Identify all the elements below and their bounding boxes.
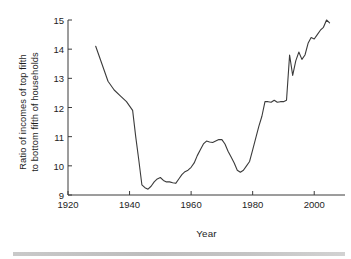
- y-tick-label-15: 15: [40, 15, 64, 26]
- x-tick-label-1920: 1920: [48, 199, 88, 210]
- x-tick-label-1980: 1980: [233, 199, 273, 210]
- y-tick-label-11: 11: [40, 131, 64, 142]
- chart-figure: Ratio of incomes of top fifth to bottom …: [0, 0, 351, 259]
- y-tick-label-13: 13: [40, 73, 64, 84]
- axis-tick-marks: [68, 20, 314, 195]
- y-tick-label-14: 14: [40, 44, 64, 55]
- y-tick-label-12: 12: [40, 102, 64, 113]
- x-tick-label-1960: 1960: [171, 199, 211, 210]
- y-tick-label-10: 10: [40, 160, 64, 171]
- data-series-line: [96, 20, 330, 189]
- x-tick-label-1940: 1940: [110, 199, 150, 210]
- y-axis-tick-labels: 9101112131415: [36, 0, 64, 259]
- axis-lines: [68, 20, 345, 195]
- x-axis-label: Year: [68, 228, 345, 239]
- bottom-divider-bar: [13, 252, 345, 256]
- x-tick-label-2000: 2000: [294, 199, 334, 210]
